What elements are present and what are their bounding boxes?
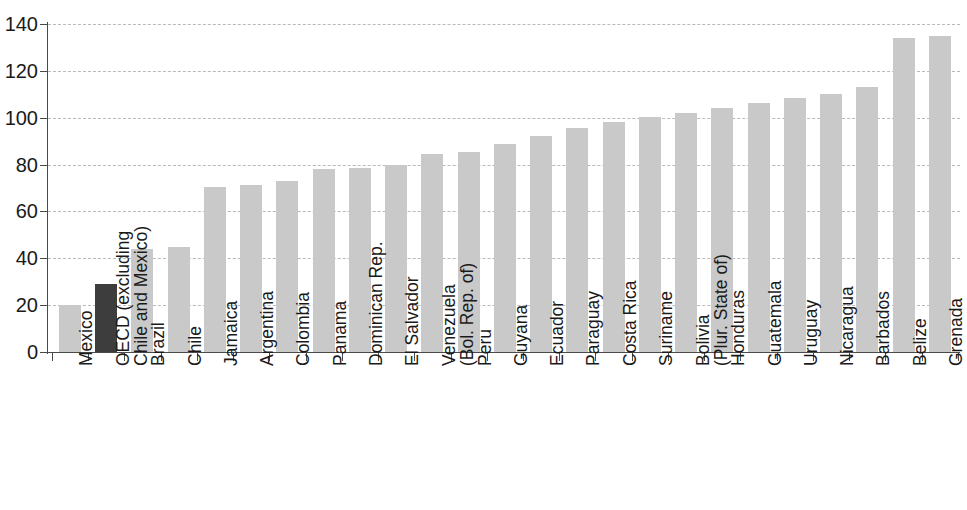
y-axis-tick-label: 120	[0, 61, 38, 81]
x-axis-tick-label-line: Dominican Rep.	[367, 242, 385, 367]
x-axis-tick-label-line: Honduras	[729, 290, 747, 366]
x-axis-tick-label-line: Ecuador	[548, 301, 566, 366]
x-axis-tick-label-line: Argentina	[258, 291, 276, 366]
x-axis-tick-label-line: Guyana	[512, 305, 530, 366]
y-axis-tick	[40, 165, 48, 166]
x-axis-tick-label: Honduras	[729, 290, 747, 366]
x-axis-tick-label: OECD (excludingChile and Mexico)	[114, 226, 150, 366]
x-axis-tick-label: Barbados	[874, 291, 892, 366]
x-axis-tick-label-line: Costa Rica	[621, 280, 639, 366]
x-axis-tick-label-line: Peru	[476, 329, 494, 366]
x-axis-tick-label: Panama	[331, 301, 349, 366]
x-axis-tick-label: Nicaragua	[838, 286, 856, 366]
x-axis-tick-label: Chile	[186, 326, 204, 366]
x-axis-tick-label: Belize	[911, 318, 929, 366]
x-axis-tick-label: Peru	[476, 329, 494, 366]
x-axis-tick-label-line: Barbados	[874, 291, 892, 366]
y-axis-tick	[40, 24, 48, 25]
x-axis-tick-label: Mexico	[77, 311, 95, 366]
x-axis-tick-label: Grenada	[947, 298, 965, 366]
x-axis-tick-label-line: Chile	[186, 326, 204, 366]
x-axis-tick-label: Bolivia(Plur. State of)	[694, 254, 730, 366]
x-axis-tick-label-line: Nicaragua	[838, 286, 856, 366]
x-axis-tick-label: Ecuador	[548, 301, 566, 366]
x-axis-tick-label-line: Bolivia	[694, 254, 712, 366]
x-axis-tick-label-line: Belize	[911, 318, 929, 366]
x-axis-tick-label-line: Colombia	[294, 292, 312, 366]
y-axis-tick-label: 80	[0, 155, 38, 175]
x-axis-tick-label-line: Uruguay	[802, 300, 820, 366]
x-axis-tick-label: El Salvador	[403, 277, 421, 367]
y-axis-tick	[40, 305, 48, 306]
x-axis-tick-label: Uruguay	[802, 300, 820, 366]
x-axis-tick-label-line: Guatemala	[766, 280, 784, 366]
x-axis-tick-label: Jamaica	[222, 301, 240, 366]
x-axis-tick-label: Guatemala	[766, 280, 784, 366]
x-axis-tick-label-line: Grenada	[947, 298, 965, 366]
y-axis-tick	[40, 118, 48, 119]
bars-container	[48, 24, 960, 352]
y-axis-tick-label: 40	[0, 248, 38, 268]
x-axis-tick-label: Argentina	[258, 291, 276, 366]
x-axis-line	[47, 352, 960, 353]
x-axis-tick-label: Suriname	[657, 291, 675, 366]
y-axis-tick	[40, 71, 48, 72]
y-axis-tick-label: 140	[0, 14, 38, 34]
x-axis-tick-label-line: Panama	[331, 301, 349, 366]
x-axis-tick-label: Dominican Rep.	[367, 242, 385, 367]
x-axis-tick-label-line: OECD (excluding	[114, 226, 132, 366]
x-axis-tick-label-line: Paraguay	[584, 291, 602, 366]
x-axis-tick-label: Paraguay	[584, 291, 602, 366]
y-axis-tick-label: 20	[0, 295, 38, 315]
x-axis-tick-label-line: Venezuela	[440, 263, 458, 366]
y-axis-tick	[40, 211, 48, 212]
x-axis-tick	[52, 352, 53, 361]
bar-chart: 020406080100120140 MexicoOECD (excluding…	[0, 0, 967, 510]
y-axis-tick-label: 60	[0, 201, 38, 221]
x-axis-tick-label-line: Jamaica	[222, 301, 240, 366]
x-axis-tick-label-line: Mexico	[77, 311, 95, 366]
y-axis-tick-label: 100	[0, 108, 38, 128]
x-axis-tick-label: Brazil	[149, 322, 167, 366]
x-axis-tick-label-line: Brazil	[149, 322, 167, 366]
y-axis-tick-label: 0	[0, 342, 38, 362]
bar	[893, 38, 915, 352]
y-axis-tick	[40, 258, 48, 259]
x-axis-tick-label-line: Suriname	[657, 291, 675, 366]
x-axis-tick-label-line: El Salvador	[403, 277, 421, 367]
x-axis-tick-label: Guyana	[512, 305, 530, 366]
x-axis-tick-label: Venezuela(Bol. Rep. of)	[440, 263, 476, 366]
x-axis-tick-label: Colombia	[294, 292, 312, 366]
x-axis-tick-label: Costa Rica	[621, 280, 639, 366]
